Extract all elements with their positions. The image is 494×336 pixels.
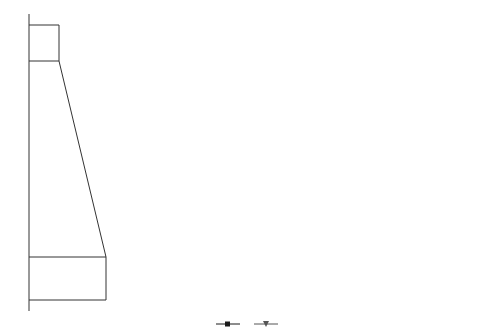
chart-canvas xyxy=(0,0,494,336)
furnace-outline xyxy=(29,14,106,311)
legend-triangle-marker-icon xyxy=(253,320,279,328)
legend xyxy=(0,317,494,329)
legend-square-marker-icon xyxy=(215,320,241,328)
